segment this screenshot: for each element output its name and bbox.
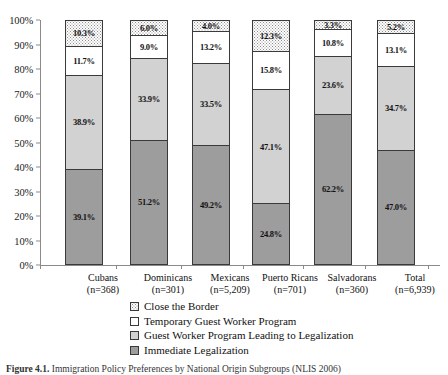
segment-value-label: 33.9% (138, 95, 160, 104)
legend-item[interactable]: Temporary Guest Worker Program (130, 315, 353, 328)
bar-segment[interactable]: 10.8% (315, 30, 351, 57)
bar-total[interactable]: 5.2%13.1%34.7%47.0% (377, 20, 415, 265)
bar-segment[interactable]: 15.8% (253, 52, 289, 91)
bar-segment[interactable]: 24.8% (253, 204, 289, 264)
legend-item[interactable]: Guest Worker Program Leading to Legaliza… (130, 329, 353, 342)
bar-puerto-ricans[interactable]: 12.3%15.8%47.1%24.8% (252, 20, 290, 265)
y-axis-tick-mark (36, 142, 40, 143)
bar-segment[interactable]: 49.2% (193, 146, 229, 264)
bar-mexicans[interactable]: 4.0%13.2%33.5%49.2% (192, 20, 230, 265)
figure-caption: Figure 4.1. Immigration Policy Preferenc… (6, 364, 442, 375)
x-axis-category-label: Total(n=6,939) (375, 272, 448, 296)
segment-value-label: 9.0% (140, 43, 158, 52)
segment-value-label: 38.9% (73, 118, 95, 127)
legend-item-label: Close the Border (144, 300, 219, 313)
category-sample-size: (n=6,939) (375, 284, 448, 296)
bar-segment[interactable]: 9.0% (131, 36, 167, 59)
bar-segment[interactable]: 47.0% (378, 151, 414, 264)
bar-segment[interactable]: 33.5% (193, 64, 229, 145)
figure-number: Figure 4.1. (6, 364, 49, 374)
bar-segment[interactable]: 62.2% (315, 115, 351, 264)
figure-caption-text: Immigration Policy Preferences by Nation… (52, 364, 341, 374)
y-axis-tick-mark (36, 93, 40, 94)
bar-segment[interactable]: 47.1% (253, 90, 289, 204)
category-name: Cubans (88, 272, 118, 283)
y-axis-tick-mark (36, 240, 40, 241)
x-axis-tick-mark (181, 265, 182, 269)
bar-cubans[interactable]: 10.3%11.7%38.9%39.1% (65, 20, 103, 265)
segment-value-label: 12.3% (260, 32, 282, 41)
x-axis-line (40, 265, 440, 266)
bar-segment[interactable]: 3.3% (315, 21, 351, 30)
segment-value-label: 4.0% (202, 22, 220, 31)
y-axis-tick-mark (36, 44, 40, 45)
bar-segment[interactable]: 13.1% (378, 34, 414, 66)
legend-swatch-icon (130, 346, 139, 355)
x-axis-tick-mark (428, 265, 429, 269)
bar-segment[interactable]: 38.9% (66, 76, 102, 170)
chart-legend: Close the BorderTemporary Guest Worker P… (130, 300, 353, 357)
bar-segment[interactable]: 13.2% (193, 32, 229, 65)
bar-dominicans[interactable]: 6.0%9.0%33.9%51.2% (130, 20, 168, 265)
y-axis-tick-mark (36, 20, 40, 21)
bar-salvadorans[interactable]: 3.3%10.8%23.6%62.2% (314, 20, 352, 265)
legend-swatch-icon (130, 317, 139, 326)
legend-item-label: Guest Worker Program Leading to Legaliza… (144, 329, 353, 342)
segment-value-label: 62.2% (322, 185, 344, 194)
bar-segment[interactable]: 11.7% (66, 47, 102, 76)
plot-area: 0%10%20%30%40%50%60%70%80%90%100%10.3%11… (40, 20, 440, 265)
legend-swatch-icon (130, 302, 139, 311)
y-axis-tick-mark (36, 118, 40, 119)
y-axis-tick-mark (36, 216, 40, 217)
segment-value-label: 13.2% (200, 43, 222, 52)
segment-value-label: 47.1% (260, 143, 282, 152)
category-name: Total (405, 272, 425, 283)
segment-value-label: 13.1% (385, 46, 407, 55)
legend-item-label: Immediate Legalization (144, 344, 249, 357)
segment-value-label: 15.8% (260, 66, 282, 75)
x-axis-tick-mark (116, 265, 117, 269)
category-name: Mexicans (211, 272, 250, 283)
y-axis-tick-mark (36, 167, 40, 168)
legend-item[interactable]: Immediate Legalization (130, 344, 353, 357)
segment-value-label: 10.8% (322, 39, 344, 48)
segment-value-label: 34.7% (385, 104, 407, 113)
legend-swatch-icon (130, 331, 139, 340)
x-axis-tick-mark (365, 265, 366, 269)
segment-value-label: 33.5% (200, 100, 222, 109)
segment-value-label: 6.0% (140, 24, 158, 33)
y-axis-tick-mark (36, 69, 40, 70)
category-name: Dominicans (144, 272, 192, 283)
y-axis-tick-mark (36, 191, 40, 192)
segment-value-label: 11.7% (73, 57, 94, 66)
segment-value-label: 23.6% (322, 81, 344, 90)
bar-segment[interactable]: 51.2% (131, 141, 167, 264)
x-axis-tick-mark (303, 265, 304, 269)
segment-value-label: 10.3% (73, 29, 95, 38)
bar-segment[interactable]: 10.3% (66, 21, 102, 47)
category-name: Puerto Ricans (262, 272, 318, 283)
x-axis-tick-mark (40, 265, 41, 269)
segment-value-label: 47.0% (385, 203, 407, 212)
category-name: Salvadorans (328, 272, 377, 283)
segment-value-label: 5.2% (387, 23, 405, 32)
bar-segment[interactable]: 12.3% (253, 21, 289, 52)
bar-segment[interactable]: 5.2% (378, 21, 414, 34)
segment-value-label: 39.1% (73, 213, 95, 222)
segment-value-label: 49.2% (200, 201, 222, 210)
bar-segment[interactable]: 6.0% (131, 21, 167, 36)
segment-value-label: 24.8% (260, 230, 282, 239)
segment-value-label: 51.2% (138, 198, 160, 207)
bar-segment[interactable]: 23.6% (315, 57, 351, 115)
segment-value-label: 3.3% (324, 21, 342, 29)
legend-item-label: Temporary Guest Worker Program (144, 315, 296, 328)
bar-segment[interactable]: 33.9% (131, 59, 167, 141)
bar-segment[interactable]: 4.0% (193, 21, 229, 32)
x-axis-tick-mark (243, 265, 244, 269)
legend-item[interactable]: Close the Border (130, 300, 353, 313)
bar-segment[interactable]: 34.7% (378, 67, 414, 151)
bar-segment[interactable]: 39.1% (66, 170, 102, 264)
